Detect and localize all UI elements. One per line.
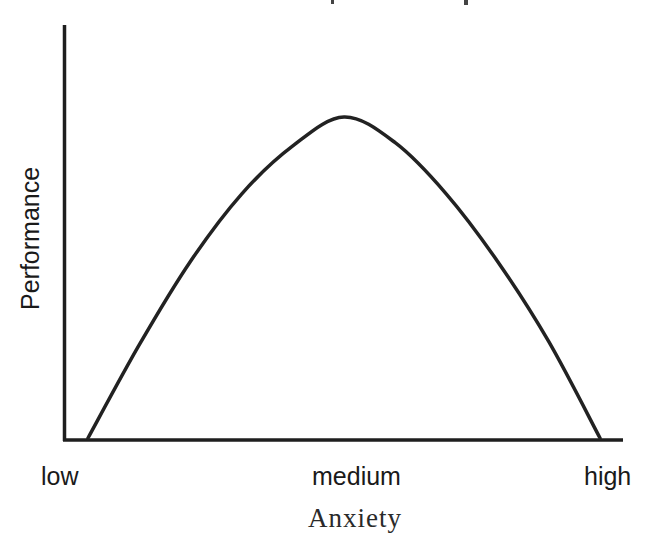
performance-curve bbox=[88, 117, 600, 438]
y-axis-title: Performance bbox=[16, 167, 44, 310]
chart-title-cutoff bbox=[331, 0, 468, 5]
x-axis-title: Anxiety bbox=[308, 503, 402, 533]
inverted-u-chart: low medium high Anxiety Performance bbox=[0, 0, 659, 547]
x-tick-medium: medium bbox=[312, 462, 401, 490]
x-tick-low: low bbox=[41, 462, 79, 490]
x-tick-high: high bbox=[584, 462, 631, 490]
